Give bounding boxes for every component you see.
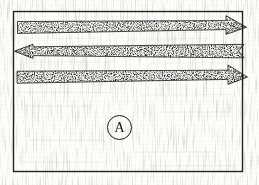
- figure-canvas: A: [0, 0, 259, 185]
- label-layer: A: [0, 0, 259, 185]
- circled-letter-a-text: A: [114, 120, 124, 134]
- circled-letter-a: A: [107, 115, 132, 140]
